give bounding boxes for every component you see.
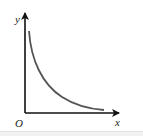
graph-canvas: y x O [0, 0, 143, 136]
function-graph-figure: y x O [0, 0, 143, 136]
y-axis-label: y [14, 13, 20, 25]
bottom-divider [0, 131, 143, 136]
x-axis-label: x [114, 116, 120, 128]
origin-label: O [15, 117, 23, 129]
decay-curve [29, 31, 104, 110]
